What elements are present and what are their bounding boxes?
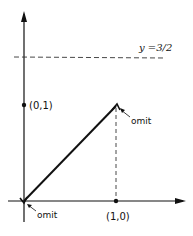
omit-label-bottom: omit [37,210,58,220]
omit-annotation-top: omit [120,108,152,126]
omit-annotation-bottom: omit [27,204,58,220]
function-graph: y =3/2 (0,1) (1,0) omit omit [0,0,193,236]
label-point-1-0: (1,0) [106,211,130,222]
x-axis-arrow-icon [175,198,186,204]
y-axis [21,11,27,222]
dashed-line-y-3-2 [14,57,166,58]
point-1-0 [114,199,118,203]
x-axis [8,198,186,204]
point-0-1 [22,103,26,107]
y-axis-arrow-icon [21,11,27,22]
label-point-0-1: (0,1) [29,100,53,111]
omit-label-top: omit [131,116,152,126]
label-y-3-2: y =3/2 [138,42,172,53]
graph-segment [24,106,116,201]
